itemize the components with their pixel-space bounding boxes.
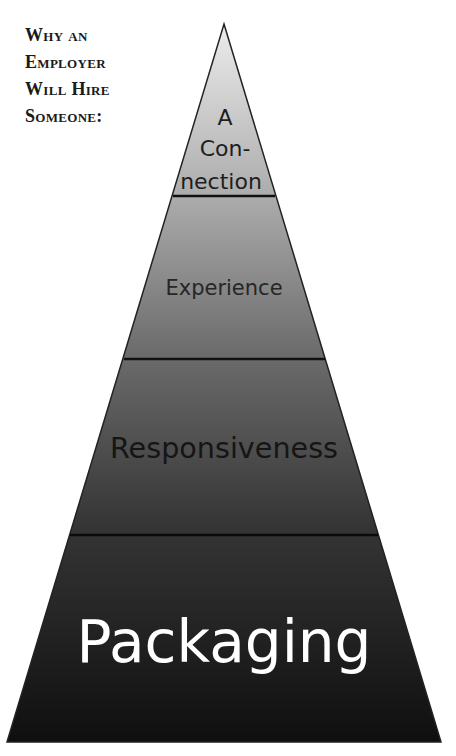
tier-packaging-label: Packaging <box>77 608 372 676</box>
tier-connection-label-line-3: nection <box>180 169 262 194</box>
tier-connection-label-line-1: A <box>217 105 232 130</box>
tier-experience-label: Experience <box>165 276 282 300</box>
hiring-pyramid: A Con- nection Experience Responsiveness… <box>0 0 456 756</box>
tier-responsiveness-label: Responsiveness <box>110 432 338 465</box>
tier-connection-label-line-2: Con- <box>200 136 251 161</box>
